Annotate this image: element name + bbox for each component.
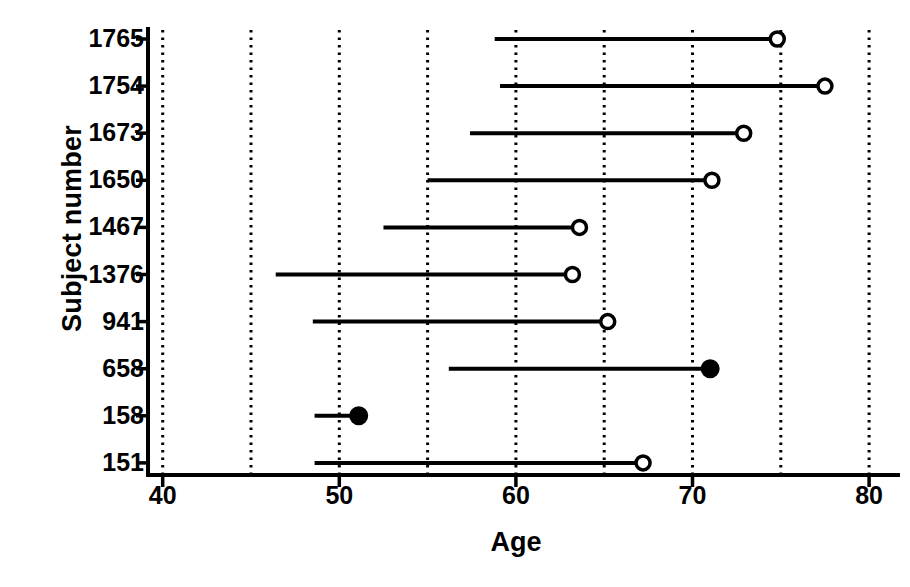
- endpoint-marker-1765: [770, 32, 784, 46]
- x-tick-label-50: 50: [304, 483, 374, 508]
- x-tick-label-40: 40: [128, 483, 198, 508]
- data-series-group: [276, 32, 832, 470]
- x-tick-label-70: 70: [658, 483, 728, 508]
- y-tick-label-151: 151: [102, 450, 144, 475]
- y-tick-label-658: 658: [102, 356, 144, 381]
- y-tick-label-1754: 1754: [88, 73, 144, 98]
- endpoint-marker-1754: [818, 79, 832, 93]
- endpoint-marker-1650: [705, 173, 719, 187]
- endpoint-marker-1467: [572, 220, 586, 234]
- endpoint-marker-1673: [737, 126, 751, 140]
- y-tick-label-941: 941: [102, 309, 144, 334]
- endpoint-marker-158: [350, 407, 367, 424]
- y-tick-label-1467: 1467: [88, 214, 144, 239]
- x-tick-label-80: 80: [834, 483, 904, 508]
- y-tick-label-1673: 1673: [88, 120, 144, 145]
- gridlines-group: [163, 30, 869, 473]
- endpoint-marker-1376: [565, 268, 579, 282]
- y-tick-label-1650: 1650: [88, 167, 144, 192]
- endpoint-marker-151: [636, 456, 650, 470]
- endpoint-marker-941: [601, 315, 615, 329]
- y-tick-label-158: 158: [102, 403, 144, 428]
- y-tick-label-1765: 1765: [88, 26, 144, 51]
- y-tick-label-1376: 1376: [88, 262, 144, 287]
- endpoint-marker-658: [702, 360, 719, 377]
- x-tick-label-60: 60: [481, 483, 551, 508]
- page-edge-filler: [0, 567, 910, 587]
- axes-group: [146, 27, 900, 475]
- range-plot-figure: Subject number Age 176517541673165014671…: [0, 0, 910, 587]
- axis-ticks-group: [136, 39, 869, 487]
